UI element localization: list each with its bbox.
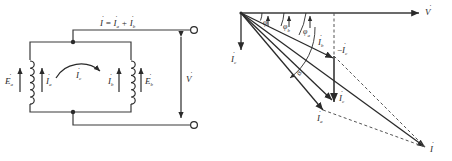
eq-ib-sub: b <box>133 24 136 29</box>
dashed-ia-to-i <box>323 110 425 147</box>
label-axis-voltage: V̇ <box>425 5 432 18</box>
label-terminal-voltage: V̇ <box>186 72 193 85</box>
wire-left-top <box>30 42 73 60</box>
wire-bottom-outer <box>73 112 190 125</box>
label-phi-a: φa <box>303 27 310 38</box>
label-current-b: İb <box>107 74 114 88</box>
arc-phi <box>261 13 263 21</box>
svg-text:İ = İa + İb: İ = İa + İb <box>99 16 136 30</box>
terminal-top[interactable] <box>191 27 198 34</box>
label-ic-vertical: İc <box>230 52 237 66</box>
wire-left-bottom <box>30 104 73 112</box>
junction-dot-bottom <box>71 110 75 114</box>
phasor-diagram: V̇ İc İb −İc İc İa <box>230 5 434 155</box>
terminal-bottom[interactable] <box>191 122 198 129</box>
coil-a-inductor <box>30 61 34 104</box>
figure-canvas: İ = İa + İb Ėa İa İb Ėb İc <box>0 0 452 161</box>
circuit-schematic: İ = İa + İb Ėa İa İb Ėb İc <box>4 16 197 129</box>
label-phi: φ <box>263 18 268 27</box>
label-ib: İb <box>317 35 324 49</box>
vector-ib <box>241 13 333 58</box>
eq-ia-dot: ̇ <box>116 16 118 17</box>
wire-top-outer <box>73 30 190 42</box>
eq-ib-dot: ̇ <box>132 16 134 17</box>
vector-ia <box>241 13 323 110</box>
wire-right-bottom <box>73 104 131 112</box>
label-emf-a: Ėa <box>4 74 14 88</box>
junction-dot-top <box>71 40 75 44</box>
label-emf-b: Ėb <box>144 74 154 88</box>
top-equation: İ = İa + İb <box>99 16 136 30</box>
vector-i-total <box>241 13 425 147</box>
label-ic-down: İc <box>338 91 345 105</box>
figure-root: İ = İa + İb Ėa İa İb Ėb İc <box>0 0 452 161</box>
wire-right-top <box>73 42 131 60</box>
label-ia: İa <box>316 111 323 125</box>
eq-i-dot: ̇ <box>102 16 104 17</box>
label-i-total: İ <box>429 142 434 155</box>
coil-b-inductor <box>131 61 135 104</box>
label-ic-negative: −İc <box>337 43 348 57</box>
label-circulating-current: İc <box>75 68 82 82</box>
label-current-a: İa <box>45 74 52 88</box>
dashed-ib-to-i <box>334 56 425 147</box>
